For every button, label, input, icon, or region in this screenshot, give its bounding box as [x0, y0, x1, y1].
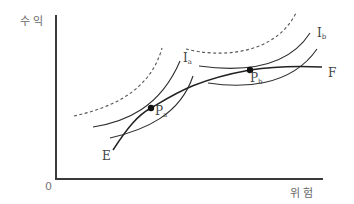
dashed-indifference-curve-b — [186, 13, 296, 53]
tangency-point-pa — [148, 105, 154, 111]
curve-ia-label: Ia — [183, 51, 192, 66]
point-pb-label: Pb — [250, 71, 263, 86]
frontier-end-label: F — [328, 66, 336, 80]
frontier-start-label: E — [102, 149, 111, 163]
point-pa-label: Pa — [155, 104, 167, 119]
efficient-frontier-ef — [113, 66, 322, 150]
y-axis-label: 수 익 — [20, 15, 44, 28]
x-axis-label: 위 험 — [290, 187, 314, 200]
origin-label: 0 — [45, 180, 52, 193]
curve-ib-label: Ib — [317, 26, 327, 41]
indifference-curve-ib — [199, 33, 310, 68]
risk-return-diagram: 수 익 위 험 0 E F Pa Pb Ia Ib — [0, 0, 354, 204]
